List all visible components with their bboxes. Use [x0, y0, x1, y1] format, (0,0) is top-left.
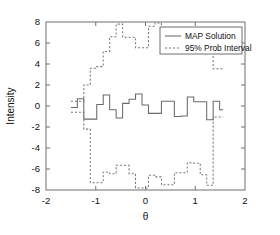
y-tick-label: 0 — [35, 100, 40, 111]
y-tick-label: 8 — [35, 16, 40, 27]
x-tick-label: -1 — [92, 195, 100, 206]
y-tick-label: -8 — [32, 184, 40, 195]
chart-figure: -2-1012-8-6-4-202468θIntensityMAP Soluti… — [0, 0, 280, 235]
legend-label-1: MAP Solution — [185, 31, 236, 41]
y-tick-label: 4 — [35, 58, 40, 69]
y-tick-label: 2 — [35, 79, 40, 90]
legend-label-2: 95% Prob Interval — [185, 43, 252, 53]
series-prob-interval — [71, 112, 223, 188]
series-map-solution — [71, 94, 223, 120]
y-tick-label: -2 — [32, 121, 40, 132]
x-tick-label: 0 — [143, 195, 148, 206]
x-axis-title: θ — [143, 211, 149, 222]
y-tick-label: 6 — [35, 37, 40, 48]
x-tick-label: -2 — [42, 195, 50, 206]
x-tick-label: 1 — [193, 195, 198, 206]
y-tick-label: -4 — [32, 142, 40, 153]
x-tick-label: 2 — [242, 195, 247, 206]
chart-canvas: -2-1012-8-6-4-202468θIntensityMAP Soluti… — [0, 0, 280, 235]
y-tick-label: -6 — [32, 163, 40, 174]
y-axis-title: Intensity — [5, 87, 16, 124]
